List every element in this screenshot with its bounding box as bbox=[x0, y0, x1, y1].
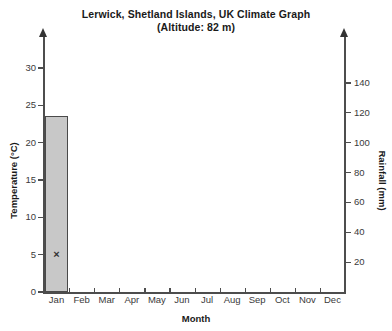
rainfall-bar bbox=[45, 116, 69, 292]
y-axis-left-tick bbox=[38, 105, 44, 106]
y-axis-right-tick bbox=[345, 142, 351, 143]
y-axis-left-tick bbox=[38, 179, 44, 180]
y-axis-right-tick bbox=[345, 172, 351, 173]
y-axis-left-tick-label: 5 bbox=[0, 249, 36, 260]
x-axis-tick bbox=[119, 288, 120, 293]
y-axis-left-tick bbox=[38, 67, 44, 68]
x-axis-tick bbox=[345, 288, 346, 293]
y-axis-left-tick-label: 30 bbox=[0, 62, 36, 73]
y-axis-left-tick bbox=[38, 142, 44, 143]
y-axis-right-tick-label: 20 bbox=[354, 256, 388, 267]
y-axis-left-tick bbox=[38, 217, 44, 218]
x-axis-tick bbox=[144, 288, 145, 293]
x-axis-tick bbox=[245, 288, 246, 293]
y-axis-right-tick-label: 140 bbox=[354, 77, 388, 88]
y-axis-left-tick-label: 10 bbox=[0, 211, 36, 222]
x-axis-tick bbox=[94, 288, 95, 293]
x-axis-tick bbox=[270, 288, 271, 293]
y-axis-right-tick-label: 100 bbox=[354, 137, 388, 148]
y-axis-right-line bbox=[344, 36, 346, 293]
climate-graph: Lerwick, Shetland Islands, UK Climate Gr… bbox=[0, 0, 392, 331]
y-axis-right-tick bbox=[345, 82, 351, 83]
y-axis-right-tick bbox=[345, 262, 351, 263]
x-axis-tick bbox=[195, 288, 196, 293]
y-axis-right-tick-label: 40 bbox=[354, 226, 388, 237]
y-axis-right-tick-label: 120 bbox=[354, 107, 388, 118]
x-axis-month-label: Dec bbox=[317, 294, 347, 305]
y-axis-left-arrow-icon bbox=[39, 28, 47, 37]
y-axis-left-tick-label: 0 bbox=[0, 286, 36, 297]
y-axis-right-tick bbox=[345, 232, 351, 233]
y-axis-left-tick-label: 20 bbox=[0, 137, 36, 148]
chart-subtitle: (Altitude: 82 m) bbox=[0, 21, 392, 34]
y-axis-left-tick-label: 25 bbox=[0, 99, 36, 110]
y-axis-right-tick bbox=[345, 202, 351, 203]
y-axis-right-arrow-icon bbox=[340, 28, 348, 37]
chart-title: Lerwick, Shetland Islands, UK Climate Gr… bbox=[0, 8, 392, 21]
y-axis-left-tick bbox=[38, 254, 44, 255]
y-axis-left-tick-label: 15 bbox=[0, 174, 36, 185]
x-axis-title-month: Month bbox=[0, 313, 392, 324]
y-axis-right-tick bbox=[345, 112, 351, 113]
x-axis-tick bbox=[220, 288, 221, 293]
x-axis-tick bbox=[169, 288, 170, 293]
x-axis-tick bbox=[295, 288, 296, 293]
y-axis-right-tick-label: 60 bbox=[354, 196, 388, 207]
temperature-marker: × bbox=[51, 249, 62, 260]
y-axis-right-tick-label: 80 bbox=[354, 167, 388, 178]
x-axis-tick bbox=[320, 288, 321, 293]
x-axis-tick bbox=[69, 288, 70, 293]
